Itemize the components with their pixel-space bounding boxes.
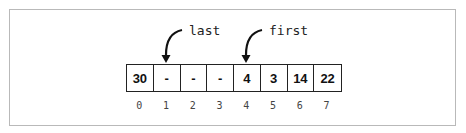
array-cell-1: - [154, 65, 181, 91]
array-cell-7: 22 [314, 65, 341, 91]
array-index-3: 3 [206, 100, 233, 111]
array-cell-6: 14 [288, 65, 315, 91]
last-pointer-label: last [189, 23, 220, 38]
array-cell-0: 30 [127, 65, 154, 91]
array-index-1: 1 [153, 100, 180, 111]
array-cell-3: - [207, 65, 234, 91]
array-index-4: 4 [233, 100, 260, 111]
array-cell-2: - [181, 65, 208, 91]
array-cell-5: 3 [261, 65, 288, 91]
array-index-5: 5 [260, 100, 287, 111]
array-index-0: 0 [126, 100, 153, 111]
array-cell-4: 4 [234, 65, 261, 91]
first-arrow-icon [242, 30, 263, 63]
array-cells: 30 - - - 4 3 14 22 [126, 64, 342, 92]
first-pointer-label: first [269, 23, 308, 38]
array-index-7: 7 [313, 100, 340, 111]
last-arrow-icon [162, 30, 183, 63]
array-index-6: 6 [287, 100, 314, 111]
array-index-2: 2 [180, 100, 207, 111]
